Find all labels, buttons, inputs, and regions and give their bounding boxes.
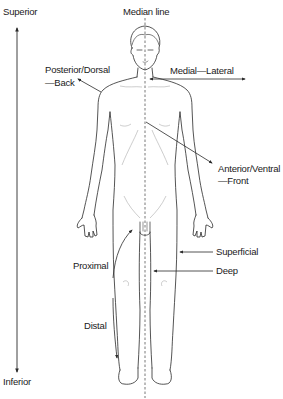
label-medial-lateral: Medial—Lateral	[170, 65, 234, 76]
label-back: —Back	[45, 77, 75, 88]
label-posterior-dorsal: Posterior/Dorsal	[45, 64, 110, 75]
label-median-line: Median line	[123, 6, 169, 17]
label-front: —Front	[218, 175, 248, 186]
label-deep: Deep	[216, 265, 238, 276]
label-inferior: Inferior	[3, 376, 31, 387]
anterior-arrow	[146, 122, 212, 163]
label-distal: Distal	[84, 320, 107, 331]
label-superficial: Superficial	[216, 246, 258, 257]
anatomy-diagram	[0, 0, 283, 399]
distal-arrow	[113, 298, 117, 358]
label-anterior-ventral: Anterior/Ventral	[218, 163, 280, 174]
proximal-arrow	[113, 230, 132, 278]
posterior-arrow	[78, 79, 101, 92]
label-proximal: Proximal	[73, 260, 108, 271]
label-superior: Superior	[3, 6, 37, 17]
